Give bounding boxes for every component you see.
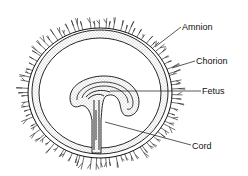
villus [172, 88, 185, 89]
villus [154, 136, 161, 142]
villus [158, 48, 166, 55]
villus [62, 30, 65, 36]
villus [125, 154, 129, 161]
label-cord: Cord [192, 141, 212, 151]
label-fetus: Fetus [202, 86, 225, 96]
villus [172, 92, 183, 95]
villus [18, 93, 28, 94]
villus [87, 17, 91, 28]
villus [26, 68, 32, 70]
villus [164, 60, 171, 64]
villus [113, 17, 115, 29]
villus [146, 36, 153, 43]
villus [125, 25, 128, 32]
villus [104, 18, 107, 28]
villus [25, 71, 31, 74]
villus [104, 158, 106, 168]
villus [50, 29, 58, 40]
label-amnion: Amnion [182, 22, 213, 32]
villus [53, 146, 58, 152]
villus [21, 96, 28, 97]
villus [171, 83, 180, 85]
villus [32, 50, 41, 56]
villus [169, 113, 175, 115]
villus [161, 128, 169, 135]
villus [167, 116, 178, 120]
label-chorion: Chorion [196, 56, 228, 66]
villus [121, 20, 124, 31]
villus [29, 63, 35, 66]
villus [116, 156, 119, 167]
villus [162, 56, 169, 60]
villus [165, 121, 174, 125]
villus [19, 75, 30, 78]
villus [30, 129, 41, 138]
villus [75, 155, 78, 163]
villus [46, 143, 55, 153]
villus [172, 98, 182, 99]
villus [45, 140, 51, 145]
villus [130, 152, 134, 161]
villus [96, 158, 99, 170]
villus [31, 123, 37, 126]
villus [40, 136, 46, 143]
villus [68, 153, 73, 161]
villus [35, 134, 45, 141]
villus [97, 20, 100, 29]
villus [16, 88, 28, 89]
villus [121, 155, 125, 161]
villus [80, 21, 82, 30]
villus [21, 117, 33, 124]
villus [57, 27, 63, 37]
villus [87, 158, 91, 170]
villus [141, 34, 145, 40]
villus [65, 24, 70, 34]
villus [71, 20, 75, 32]
villus [21, 102, 28, 105]
villus [101, 158, 103, 168]
villus [133, 151, 139, 160]
villus [76, 18, 80, 31]
villus [170, 108, 178, 111]
amnion-leader-line [155, 27, 181, 47]
villus [171, 102, 184, 105]
villus [46, 36, 53, 44]
villus [21, 106, 29, 108]
chorion-leader-line [172, 61, 195, 68]
villus [93, 21, 95, 28]
villus [29, 57, 37, 62]
villus [137, 29, 142, 37]
villus [26, 114, 32, 117]
villus [132, 28, 135, 35]
villus [24, 109, 30, 111]
villus [21, 78, 30, 82]
villus [109, 21, 111, 28]
villus [109, 158, 111, 167]
